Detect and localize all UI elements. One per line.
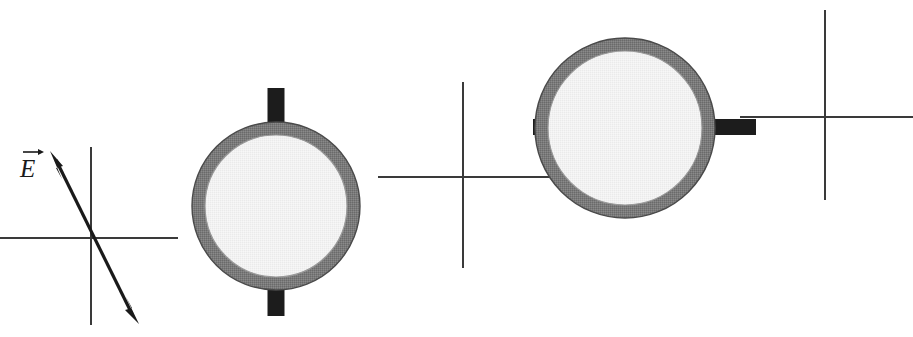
physics-diagram-figure: E	[0, 0, 913, 337]
canvas-background	[0, 0, 913, 337]
ring-1-inner-disc	[205, 135, 347, 277]
e-field-label: E	[19, 155, 35, 182]
diagram-canvas: E	[0, 0, 913, 337]
ring-2-inner-disc	[548, 51, 702, 205]
